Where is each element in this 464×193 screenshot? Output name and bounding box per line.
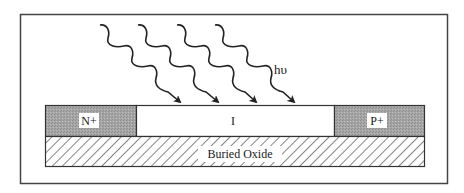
buried-oxide-label: Buried Oxide [208, 147, 273, 161]
photon-energy-label: hυ [274, 62, 287, 77]
device-layer: N+ I P+ [46, 106, 425, 137]
photon-rays [100, 25, 294, 102]
n-plus-label: N+ [81, 114, 97, 128]
pin-photodiode-diagram: hυ N+ I P+ Buried Oxide [0, 0, 464, 193]
intrinsic-region [137, 106, 335, 137]
p-plus-label: P+ [370, 114, 384, 128]
buried-oxide-layer: Buried Oxide [46, 137, 425, 167]
intrinsic-label: I [231, 114, 235, 128]
photon-ray-icon [100, 25, 180, 102]
photon-ray-icon [177, 25, 256, 102]
photon-ray-icon [138, 25, 218, 102]
